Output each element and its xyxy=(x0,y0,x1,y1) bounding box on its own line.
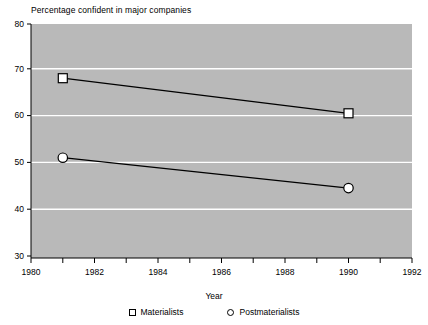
y-tick-label-70: 70 xyxy=(4,65,24,74)
y-tick-label-60: 60 xyxy=(4,111,24,120)
x-tick-label-1984: 1984 xyxy=(138,268,178,277)
x-tick-label-1990: 1990 xyxy=(329,268,369,277)
x-tick-label-1982: 1982 xyxy=(75,268,115,277)
data-point-postmaterialists-1981 xyxy=(58,153,67,162)
y-axis-ticks xyxy=(27,24,31,256)
x-tick-label-1988: 1988 xyxy=(265,268,305,277)
x-axis-title: Year xyxy=(0,291,428,301)
chart-container: Percentage confident in major companies xyxy=(0,0,428,325)
plot-background xyxy=(31,24,412,258)
y-tick-label-40: 40 xyxy=(4,205,24,214)
legend-item-materialists: Materialists xyxy=(129,307,184,317)
x-tick-label-1992: 1992 xyxy=(392,268,428,277)
circle-marker-icon xyxy=(227,309,234,316)
data-point-postmaterialists-1990 xyxy=(344,183,353,192)
y-tick-label-30: 30 xyxy=(4,252,24,261)
legend-label-postmaterialists: Postmaterialists xyxy=(239,307,299,317)
legend-item-postmaterialists: Postmaterialists xyxy=(227,307,299,317)
square-marker-icon xyxy=(129,309,136,316)
data-point-materialists-1981 xyxy=(58,74,67,83)
y-tick-label-50: 50 xyxy=(4,158,24,167)
x-axis-ticks xyxy=(31,258,412,263)
y-tick-label-80: 80 xyxy=(4,20,24,29)
data-point-materialists-1990 xyxy=(344,109,353,118)
x-tick-label-1980: 1980 xyxy=(11,268,51,277)
x-tick-label-1986: 1986 xyxy=(202,268,242,277)
legend-label-materialists: Materialists xyxy=(141,307,184,317)
chart-legend: Materialists Postmaterialists xyxy=(0,307,428,317)
